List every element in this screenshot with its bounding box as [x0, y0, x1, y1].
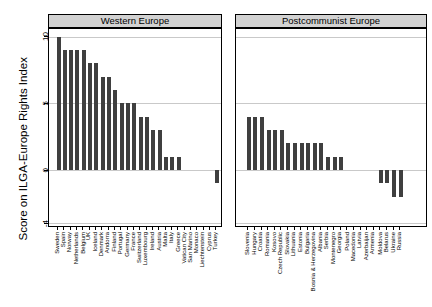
- panel-western-europe: [48, 28, 222, 227]
- gridline: [49, 37, 221, 38]
- bar: [260, 117, 264, 170]
- x-tick: [287, 227, 288, 230]
- bar: [69, 50, 73, 170]
- y-tick-label-text: 0: [41, 168, 50, 172]
- x-tick: [57, 227, 58, 230]
- x-tick: [320, 227, 321, 230]
- x-tick: [379, 227, 380, 230]
- x-tick-label-text: Poland: [343, 232, 350, 251]
- panel-strip-postcommunist-europe: Postcommunist Europe: [235, 14, 427, 28]
- bar: [267, 130, 271, 170]
- x-tick: [165, 227, 166, 230]
- x-tick: [152, 227, 153, 230]
- x-tick: [209, 227, 210, 230]
- gridline: [236, 223, 426, 224]
- gridline: [49, 170, 221, 171]
- x-tick: [280, 227, 281, 230]
- x-tick-label-text: Turkey: [212, 232, 219, 250]
- x-tick: [76, 227, 77, 230]
- x-tick: [108, 227, 109, 230]
- bar: [326, 157, 330, 170]
- panel-postcommunist-europe: [235, 28, 427, 227]
- x-tick: [184, 227, 185, 230]
- x-tick: [89, 227, 90, 230]
- x-tick: [333, 227, 334, 230]
- x-tick: [254, 227, 255, 230]
- bar-chart-figure: Score on ILGA-Europe Rights Index Wester…: [0, 0, 432, 307]
- bar: [253, 117, 257, 170]
- bar: [339, 157, 343, 170]
- y-tick-label-text: 10: [41, 32, 50, 41]
- bar: [379, 170, 383, 183]
- x-tick: [346, 227, 347, 230]
- x-tick-label-text: Moldova: [376, 232, 383, 255]
- x-tick: [95, 227, 96, 230]
- bar: [57, 37, 61, 171]
- bar: [319, 143, 323, 170]
- panel-strip-label: Postcommunist Europe: [282, 16, 380, 26]
- x-tick: [177, 227, 178, 230]
- bar: [333, 157, 337, 170]
- x-tick: [366, 227, 367, 230]
- bar: [300, 143, 304, 170]
- x-tick: [171, 227, 172, 230]
- x-tick: [203, 227, 204, 230]
- x-tick: [190, 227, 191, 230]
- x-tick: [313, 227, 314, 230]
- bar: [151, 130, 155, 170]
- x-tick: [215, 227, 216, 230]
- bar: [392, 170, 396, 197]
- x-tick: [82, 227, 83, 230]
- bar: [126, 103, 130, 170]
- x-tick: [294, 227, 295, 230]
- x-tick: [267, 227, 268, 230]
- bar: [158, 130, 162, 170]
- bar: [132, 103, 136, 170]
- panel-strip-western-europe: Western Europe: [48, 14, 222, 28]
- x-tick: [101, 227, 102, 230]
- bar: [82, 50, 86, 170]
- x-tick: [261, 227, 262, 230]
- x-tick: [307, 227, 308, 230]
- bar: [170, 157, 174, 170]
- x-tick: [386, 227, 387, 230]
- x-tick: [70, 227, 71, 230]
- bar: [120, 103, 124, 170]
- x-tick: [373, 227, 374, 230]
- x-tick: [360, 227, 361, 230]
- bar: [164, 157, 168, 170]
- x-tick: [158, 227, 159, 230]
- bar: [113, 90, 117, 170]
- bar: [145, 117, 149, 170]
- x-tick: [146, 227, 147, 230]
- x-tick-label-text: Georgia: [337, 232, 344, 253]
- bar: [139, 117, 143, 170]
- gridline: [49, 223, 221, 224]
- bar: [75, 50, 79, 170]
- x-tick: [63, 227, 64, 230]
- gridline: [236, 37, 426, 38]
- x-tick: [393, 227, 394, 230]
- x-tick: [340, 227, 341, 230]
- bar: [88, 63, 92, 170]
- x-tick: [353, 227, 354, 230]
- bar: [94, 63, 98, 170]
- x-tick-label-text: Armenia: [370, 232, 377, 254]
- gridline: [236, 103, 426, 104]
- x-tick-label-text: Russia: [396, 232, 403, 250]
- x-tick: [114, 227, 115, 230]
- x-tick: [327, 227, 328, 230]
- bar: [280, 130, 284, 170]
- x-tick: [399, 227, 400, 230]
- x-tick: [133, 227, 134, 230]
- bar: [107, 77, 111, 170]
- x-tick: [247, 227, 248, 230]
- panel-strip-label: Western Europe: [101, 16, 169, 26]
- bar: [177, 157, 181, 170]
- bar: [385, 170, 389, 183]
- x-tick: [139, 227, 140, 230]
- bar: [63, 50, 67, 170]
- y-axis-title-text: Score on ILGA-Europe Rights Index: [17, 57, 29, 240]
- bar: [306, 143, 310, 170]
- bar: [101, 77, 105, 170]
